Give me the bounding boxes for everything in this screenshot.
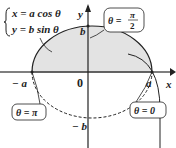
neg-a-label: − a [12, 77, 27, 89]
callout-right-text: θ = 0 [134, 105, 155, 116]
a-label: a [146, 77, 152, 89]
y-axis-arrow-icon [85, 4, 91, 12]
point-b [87, 25, 90, 28]
x-axis-arrow-icon [170, 68, 176, 76]
origin-label: 0 [77, 76, 83, 90]
neg-b-label: − b [72, 120, 87, 132]
callout-top-den: 2 [130, 21, 135, 31]
ellipse-diagram: x = a cos θ y = b sin θ y x 0 b − b a − … [0, 0, 176, 148]
point-neg-a [31, 71, 34, 74]
equation-line-2: y = b sin θ [10, 23, 59, 35]
y-axis-label: y [76, 8, 83, 20]
callout-left-text: θ = π [16, 107, 38, 118]
b-label: b [80, 25, 86, 37]
equation-brace [4, 8, 10, 36]
callout-top-lhs: θ = [108, 15, 122, 26]
equation-line-1: x = a cos θ [11, 7, 61, 19]
point-a [151, 71, 154, 74]
x-axis-label: x [165, 78, 172, 90]
